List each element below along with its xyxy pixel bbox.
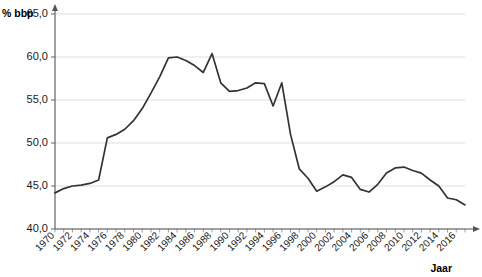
x-axis-ticks-and-labels: 1970197219741976197819801982198419861988…: [33, 229, 465, 253]
y-tick-label: 45,0: [27, 179, 48, 191]
x-tick-label: 2016: [434, 229, 458, 253]
y-tick-label: 60,0: [27, 50, 48, 62]
x-axis-arrowhead: [473, 226, 480, 232]
y-tick-label: 50,0: [27, 136, 48, 148]
gridlines: [55, 14, 465, 229]
y-axis-title: % bbp: [2, 7, 34, 19]
y-tick-label: 55,0: [27, 93, 48, 105]
chart-container: 65,060,055,050,045,040,0 197019721974197…: [0, 0, 482, 277]
debt-series-line: [55, 54, 465, 205]
debt-line-chart: 65,060,055,050,045,040,0 197019721974197…: [0, 0, 482, 277]
y-axis-ticks-and-labels: 65,060,055,050,045,040,0: [27, 7, 55, 234]
y-axis-arrowhead: [52, 4, 58, 11]
x-axis-title: Jaar: [430, 262, 452, 274]
